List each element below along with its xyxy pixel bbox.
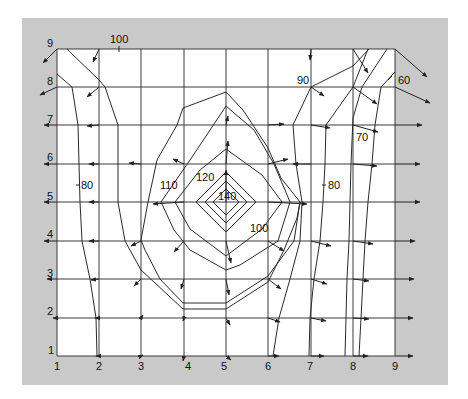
x-tick: 4 [185, 360, 191, 372]
x-tick: 2 [96, 360, 102, 372]
contour-label-120: 120 [196, 171, 214, 183]
y-tick: 5 [47, 190, 53, 202]
y-tick: 8 [47, 75, 53, 87]
contour-label-60: 60 [398, 74, 410, 86]
contour-label-70: 70 [356, 131, 368, 143]
y-tick: 1 [48, 344, 54, 356]
x-tick: 3 [138, 360, 144, 372]
x-tick: 6 [265, 360, 271, 372]
contour-diagram: 1 2 3 4 5 6 7 8 9 1 2 3 4 5 6 7 8 9 100 … [0, 0, 468, 399]
contour-label-80-right: 80 [328, 179, 340, 191]
x-tick: 1 [54, 360, 60, 372]
x-tick: 5 [221, 360, 227, 372]
y-axis-ticks: 1 2 3 4 5 6 7 8 9 [47, 37, 54, 356]
contour-label-90: 90 [297, 74, 309, 86]
contour-label-80-left: 80 [81, 179, 93, 191]
y-tick: 6 [47, 151, 53, 163]
y-tick: 3 [47, 267, 53, 279]
x-tick: 9 [392, 360, 398, 372]
x-tick: 8 [350, 360, 356, 372]
contour-label-100-top: 100 [110, 33, 128, 45]
contour-label-140: 140 [218, 190, 236, 202]
y-tick: 9 [47, 37, 53, 49]
y-tick: 4 [47, 228, 53, 240]
y-tick: 2 [47, 305, 53, 317]
contour-label-110: 110 [160, 179, 178, 191]
contour-label-100-center: 100 [250, 222, 268, 234]
x-tick: 7 [307, 360, 313, 372]
y-tick: 7 [47, 113, 53, 125]
